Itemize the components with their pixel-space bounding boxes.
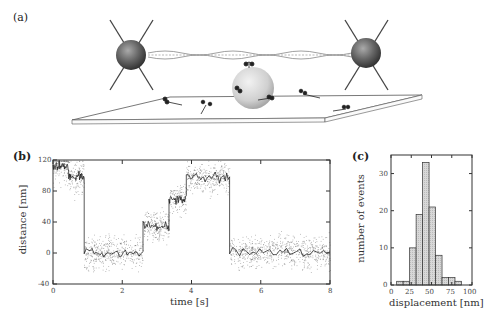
b-ytick-120: 120 [38,156,51,164]
panel-c-ticks [391,155,472,285]
c-ytick-30: 30 [379,170,388,178]
left-trapped-bead [116,40,146,70]
b-ytick-40: 40 [42,218,51,226]
c-xtick-0: 0 [389,288,393,296]
c-xtick-75: 75 [446,288,455,296]
panel-b-ticks [53,160,330,284]
panel-a-schematic [0,0,486,140]
b-xtick-2: 2 [120,287,124,295]
c-xlabel: displacement [nm] [389,297,484,308]
b-xtick-8: 8 [328,287,332,295]
actin-filament [148,51,352,59]
b-ylabel: distance [nm] [17,185,28,255]
b-ytick-neg40: -40 [38,280,49,288]
trace-points [53,161,331,273]
panel-label-c: (c) [352,150,369,163]
c-xtick-50: 50 [425,288,434,296]
b-ytick-80: 80 [42,187,51,195]
histogram-bars [397,162,462,285]
b-xtick-4: 4 [189,287,193,295]
b-xtick-0: 0 [51,287,55,295]
right-trapped-bead [351,38,381,68]
panel-c-axes-frame [391,155,472,285]
trace-mean [53,160,330,257]
b-xtick-6: 6 [259,287,263,295]
c-ytick-10: 10 [379,244,388,252]
c-ytick-20: 20 [379,207,388,215]
c-ytick-0: 0 [383,281,387,289]
b-ytick-0: 0 [46,249,50,257]
panel-label-b: (b) [13,150,31,163]
panel-b-axes-frame [53,160,330,284]
b-xlabel: time [s] [170,296,209,307]
c-ylabel: number of events [355,174,366,263]
c-xtick-100: 100 [463,288,476,296]
c-xtick-25: 25 [405,288,414,296]
